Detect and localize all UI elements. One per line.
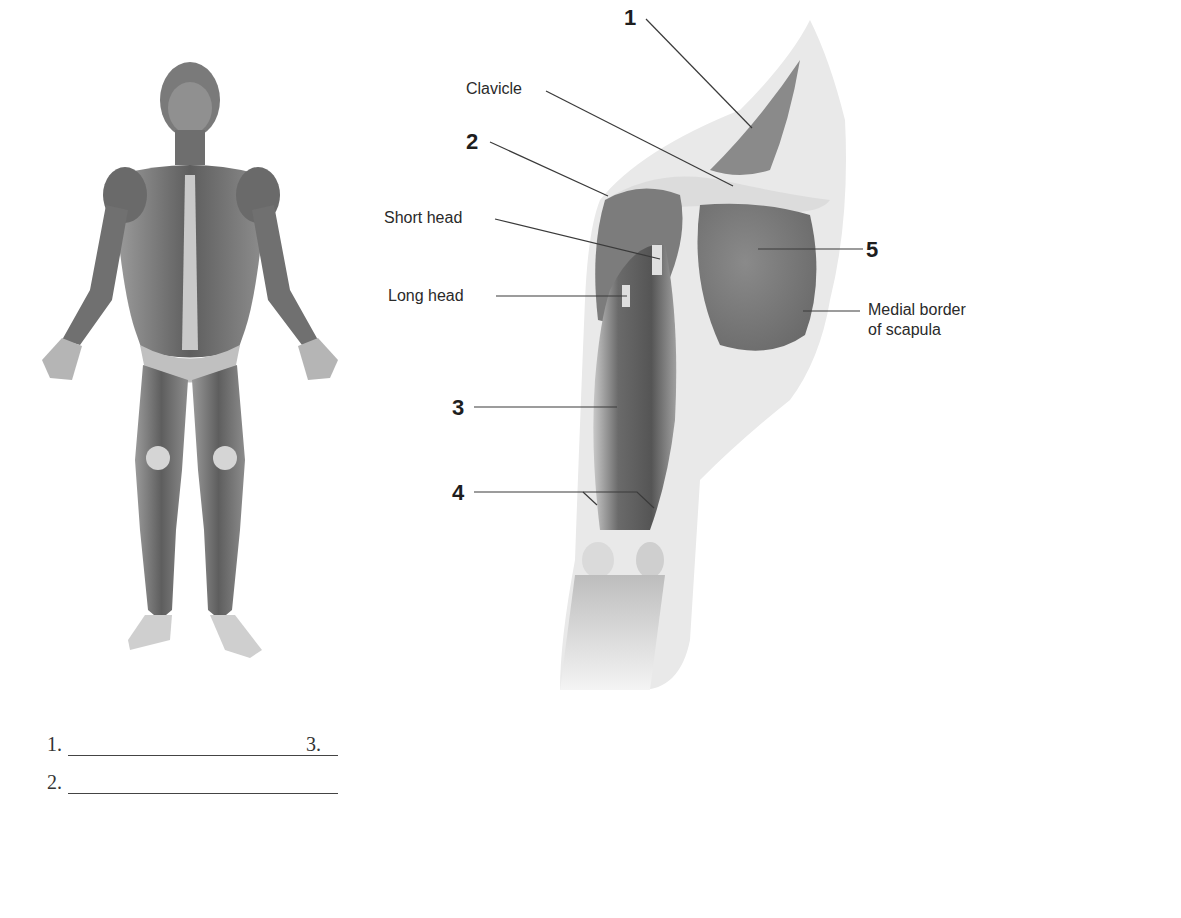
label-clavicle: Clavicle (466, 79, 522, 99)
answer-2-number: 2. (47, 771, 62, 794)
answer-2-blank[interactable] (68, 775, 338, 794)
label-short-head: Short head (384, 208, 462, 228)
callout-5: 5 (866, 238, 878, 262)
answer-1[interactable]: 1. (47, 730, 338, 756)
label-medial-border-1: Medial border (868, 300, 966, 320)
answer-1-blank[interactable] (68, 737, 338, 756)
worksheet: 1 Clavicle 2 Short head Long head 5 Medi… (0, 0, 1181, 918)
label-long-head: Long head (388, 286, 464, 306)
callout-1: 1 (624, 6, 636, 30)
leader-line-2 (490, 142, 608, 196)
answer-3-row[interactable]: 3. (306, 730, 327, 756)
answer-3-number: 3. (306, 733, 321, 756)
callout-3: 3 (452, 396, 464, 420)
answer-1-number: 1. (47, 733, 62, 756)
label-medial-border-2: of scapula (868, 320, 941, 340)
full-body-figure (42, 62, 338, 658)
callout-2: 2 (466, 130, 478, 154)
leader-line-1 (646, 19, 752, 128)
callout-4: 4 (452, 481, 464, 505)
answer-2[interactable]: 2. (47, 768, 338, 794)
